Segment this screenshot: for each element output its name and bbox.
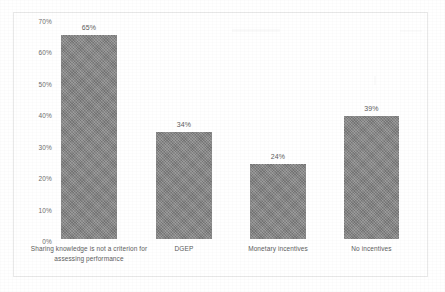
x-axis-label-3: No incentives [313, 244, 431, 254]
bar-group-0[interactable]: 65% Sharing knowledge is not a criterion… [61, 35, 117, 239]
y-axis-tick-5: 50% [18, 80, 52, 87]
bar-value-0: 65% [82, 24, 97, 31]
chart-container: 0% 10% 20% 30% 40% 50% 60% 70% 65% Shari… [13, 12, 428, 277]
scan-artifact [232, 29, 280, 32]
y-axis-tick-7: 70% [18, 18, 52, 25]
bar-value-1: 34% [177, 121, 192, 128]
plot-area: 0% 10% 20% 30% 40% 50% 60% 70% 65% Shari… [14, 13, 427, 276]
scan-artifact [400, 30, 422, 32]
scan-artifact [374, 76, 376, 85]
y-axis-tick-2: 20% [18, 175, 52, 182]
bar-rect-1[interactable] [156, 132, 212, 239]
y-axis-tick-1: 10% [18, 206, 52, 213]
y-axis-tick-3: 30% [18, 143, 52, 150]
bar-rect-2[interactable] [250, 164, 306, 239]
bar-group-3[interactable]: 39% No incentives [344, 116, 399, 239]
bar-group-2[interactable]: 24% Monetary incentives [250, 164, 306, 239]
bar-rect-3[interactable] [344, 116, 399, 239]
bar-rect-0[interactable] [61, 35, 117, 239]
bar-group-1[interactable]: 34% DGEP [156, 132, 212, 239]
y-axis-tick-6: 60% [18, 49, 52, 56]
y-axis-tick-4: 40% [18, 112, 52, 119]
bar-value-2: 24% [271, 153, 286, 160]
bar-value-3: 39% [364, 105, 379, 112]
